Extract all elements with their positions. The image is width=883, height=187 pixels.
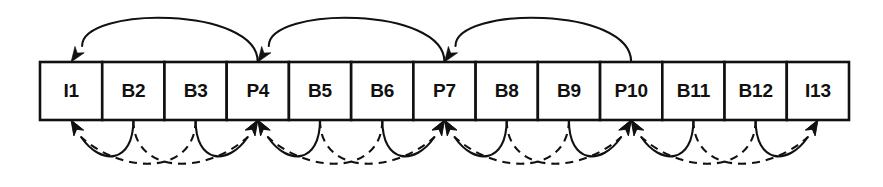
frame-label-b11: B11 bbox=[677, 80, 711, 101]
arc-path bbox=[641, 120, 755, 164]
arc-path bbox=[269, 18, 445, 62]
arc-path bbox=[133, 120, 247, 164]
arc-path bbox=[320, 120, 435, 164]
frame-cell-b9[interactable]: B9 bbox=[538, 62, 600, 120]
frame-label-p10: P10 bbox=[615, 80, 648, 101]
frame-cell-i1[interactable]: I1 bbox=[40, 62, 102, 120]
frame-label-b6: B6 bbox=[370, 80, 394, 101]
frame-label-p7: P7 bbox=[433, 80, 456, 101]
frame-label-i1: I1 bbox=[63, 80, 79, 101]
top-arc-group bbox=[66, 18, 631, 65]
arc-path bbox=[569, 120, 621, 156]
frame-label-b2: B2 bbox=[121, 80, 145, 101]
frame-cell-b11[interactable]: B11 bbox=[662, 62, 724, 120]
top-arc-p4-predicts-from-i1 bbox=[66, 18, 257, 65]
bottom-arc-b8-backward-to-p7 bbox=[440, 117, 507, 156]
arc-path bbox=[268, 120, 320, 156]
gop-diagram-canvas: I1B2B3P4B5B6P7B8B9P10B11B12I13 bbox=[0, 0, 883, 187]
bottom-arc-b6-forward-to-p7 bbox=[382, 117, 449, 156]
arc-path bbox=[81, 120, 133, 156]
bottom-arc-b12-forward-to-i13 bbox=[756, 117, 823, 156]
arc-path bbox=[81, 120, 196, 164]
frame-cell-b8[interactable]: B8 bbox=[476, 62, 538, 120]
frame-label-i13: I13 bbox=[805, 80, 831, 101]
arc-path bbox=[268, 120, 383, 164]
frame-cell-b6[interactable]: B6 bbox=[351, 62, 413, 120]
top-arc-p10-predicts-from-p7 bbox=[440, 18, 631, 65]
frame-label-p4: P4 bbox=[246, 80, 269, 101]
arc-path bbox=[641, 120, 693, 156]
bottom-arc-b5-backward-to-p4 bbox=[253, 117, 320, 156]
bottom-arc-group bbox=[66, 117, 822, 164]
arc-path bbox=[507, 120, 622, 164]
arc-path bbox=[455, 120, 507, 156]
arc-path bbox=[196, 120, 248, 156]
frame-cell-p7[interactable]: P7 bbox=[413, 62, 475, 120]
top-arc-p7-predicts-from-p4 bbox=[253, 18, 444, 65]
arc-path bbox=[455, 120, 569, 164]
gop-dependency-diagram: I1B2B3P4B5B6P7B8B9P10B11B12I13 bbox=[0, 0, 883, 187]
frame-cell-i13[interactable]: I13 bbox=[787, 62, 849, 120]
frame-cell-p4[interactable]: P4 bbox=[227, 62, 289, 120]
frame-label-b3: B3 bbox=[184, 80, 208, 101]
frame-cell-b5[interactable]: B5 bbox=[289, 62, 351, 120]
bottom-arc-b3-forward-to-p4 bbox=[196, 117, 263, 156]
bottom-arc-b11-backward-to-p10 bbox=[626, 117, 693, 156]
frame-cell-b12[interactable]: B12 bbox=[725, 62, 787, 120]
bottom-arc-b2-backward-to-i1 bbox=[66, 117, 133, 156]
arc-path bbox=[456, 18, 632, 62]
frame-cell-b2[interactable]: B2 bbox=[102, 62, 164, 120]
arc-path bbox=[756, 120, 808, 156]
arc-path bbox=[82, 18, 258, 62]
bottom-arc-b9-forward-to-p10 bbox=[569, 117, 636, 156]
frame-cell-p10[interactable]: P10 bbox=[600, 62, 662, 120]
frame-label-b12: B12 bbox=[739, 80, 773, 101]
frame-label-b9: B9 bbox=[557, 80, 581, 101]
arc-path bbox=[693, 120, 808, 164]
frame-label-b5: B5 bbox=[308, 80, 333, 101]
frame-row: I1B2B3P4B5B6P7B8B9P10B11B12I13 bbox=[40, 62, 849, 120]
frame-label-b8: B8 bbox=[495, 80, 519, 101]
arc-path bbox=[382, 120, 434, 156]
frame-cell-b3[interactable]: B3 bbox=[164, 62, 226, 120]
